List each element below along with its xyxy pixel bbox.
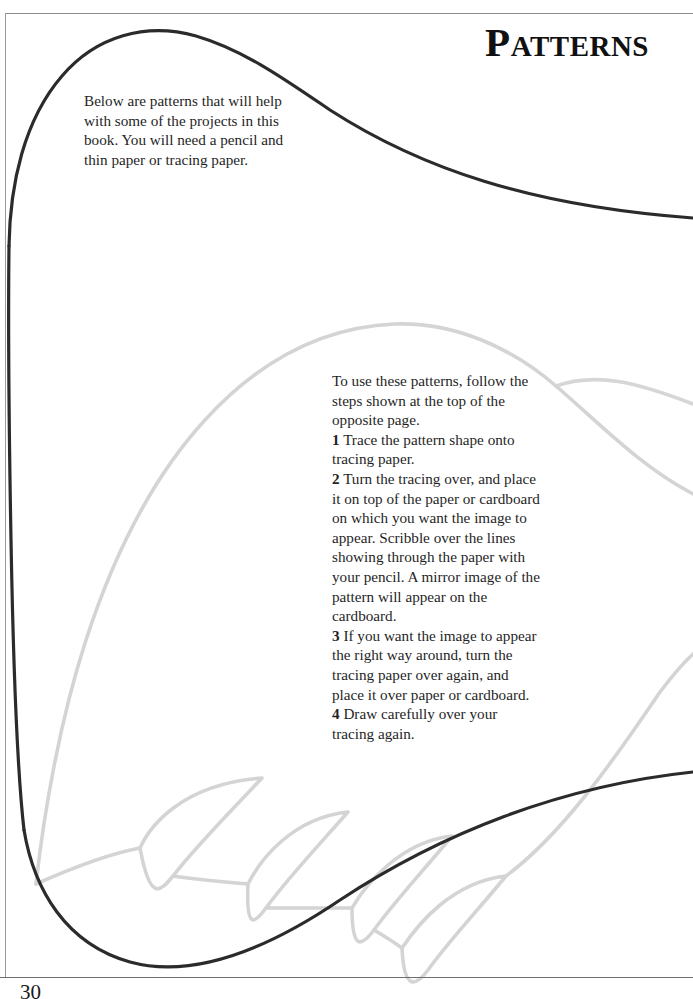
instruction-step: 2 Turn the tracing over, and place it on… bbox=[332, 469, 540, 626]
step-text: Turn the tracing over, and place it on t… bbox=[332, 470, 540, 624]
step-text: Draw carefully over your tracing again. bbox=[332, 705, 497, 742]
intro-paragraph: Below are patterns that will help with s… bbox=[84, 91, 294, 169]
instructions-lead: To use these patterns, follow the steps … bbox=[332, 371, 540, 430]
instruction-step: 3 If you want the image to appear the ri… bbox=[332, 626, 540, 704]
instructions-block: To use these patterns, follow the steps … bbox=[332, 371, 540, 743]
step-number: 4 bbox=[332, 705, 340, 722]
step-number: 1 bbox=[332, 431, 340, 448]
page-title: Patterns bbox=[485, 22, 649, 63]
instruction-step: 1 Trace the pattern shape onto tracing p… bbox=[332, 430, 540, 469]
book-page: Patterns Below are patterns that will he… bbox=[0, 0, 693, 999]
intro-text: Below are patterns that will help with s… bbox=[84, 91, 294, 169]
page-border-left bbox=[5, 13, 6, 978]
page-number: 30 bbox=[20, 979, 41, 999]
step-number: 2 bbox=[332, 470, 340, 487]
step-number: 3 bbox=[332, 627, 340, 644]
step-text: Trace the pattern shape onto tracing pap… bbox=[332, 431, 515, 468]
page-footer-rule bbox=[0, 977, 693, 978]
step-text: If you want the image to appear the righ… bbox=[332, 627, 537, 703]
page-border-top bbox=[5, 13, 693, 14]
instruction-step: 4 Draw carefully over your tracing again… bbox=[332, 704, 540, 743]
